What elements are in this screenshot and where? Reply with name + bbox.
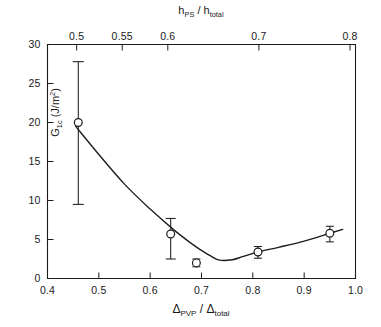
axis-ticks — [48, 45, 356, 279]
data-point-4 — [326, 229, 334, 237]
error-bar-0 — [73, 62, 84, 205]
x-tick-label-6: 1.0 — [348, 284, 363, 296]
data-point-2 — [192, 259, 200, 267]
x-tick-label-0: 0.4 — [40, 284, 55, 296]
top-tick-label-3: 0.7 — [251, 30, 266, 42]
error-bars — [73, 62, 334, 267]
y-tick-label-2: 10 — [28, 194, 40, 206]
data-point-3 — [254, 248, 262, 256]
y-tick-label-3: 15 — [28, 155, 40, 167]
figure-container: hPS / htotal G1c (J/m2) ΔPVP / Δtotal 0.… — [0, 0, 381, 327]
fitted-curve — [76, 126, 343, 260]
curve-path — [76, 126, 343, 260]
plot-area: 0.40.50.60.70.80.91.00.50.550.60.70.8051… — [0, 0, 381, 327]
x-tick-label-5: 0.9 — [297, 284, 312, 296]
y-tick-label-6: 30 — [28, 38, 40, 50]
x-tick-label-2: 0.6 — [143, 284, 158, 296]
data-markers — [74, 119, 333, 267]
x-tick-label-4: 0.8 — [245, 284, 260, 296]
top-tick-label-1: 0.55 — [112, 30, 133, 42]
top-tick-label-0: 0.5 — [69, 30, 84, 42]
plot-frame — [48, 45, 356, 279]
data-point-0 — [74, 119, 82, 127]
y-tick-label-0: 0 — [34, 272, 40, 284]
data-point-1 — [167, 230, 175, 238]
y-tick-label-4: 20 — [28, 116, 40, 128]
x-tick-label-1: 0.5 — [91, 284, 106, 296]
axis-frame — [48, 45, 356, 279]
top-tick-label-4: 0.8 — [342, 30, 357, 42]
x-tick-label-3: 0.7 — [194, 284, 209, 296]
y-tick-label-5: 25 — [28, 77, 40, 89]
y-tick-label-1: 5 — [34, 233, 40, 245]
top-tick-label-2: 0.6 — [160, 30, 175, 42]
